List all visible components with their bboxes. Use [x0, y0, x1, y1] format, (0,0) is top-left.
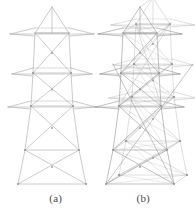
tower-panel-b: [95, 0, 195, 186]
panel-caption-row: (a) (b): [0, 186, 195, 210]
tower-a-members: [8, 7, 96, 184]
tower-diagram-b: [95, 0, 195, 186]
panel-caption-a: (a): [7, 186, 105, 210]
tower-panel-a: [0, 0, 100, 186]
tower-diagram-a: [0, 0, 100, 186]
panel-caption-b: (b): [95, 186, 193, 210]
tower-b-members: [96, 0, 195, 184]
figure-root: (a) (b): [0, 0, 195, 221]
